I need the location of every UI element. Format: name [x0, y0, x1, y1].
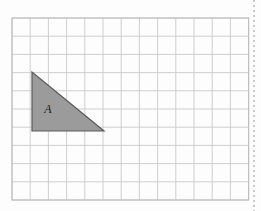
figure-canvas: A — [0, 0, 261, 211]
figure-root: A — [0, 0, 261, 211]
triangle-a-label: A — [43, 102, 52, 116]
